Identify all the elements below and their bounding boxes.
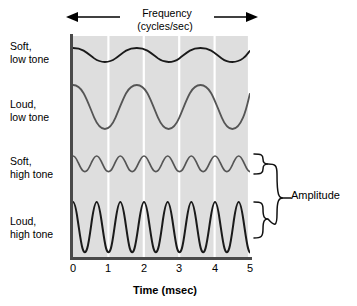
row-label-line1: Soft, <box>10 155 70 168</box>
x-tick-4: 4 <box>207 262 223 274</box>
wave-soft-low-tone <box>73 48 250 62</box>
row-label-soft-high-tone: Soft, high tone <box>10 155 70 180</box>
row-label-line2: high tone <box>10 168 70 181</box>
amplitude-label: Amplitude <box>291 189 340 201</box>
x-axis-title: Time (msec) <box>100 284 230 296</box>
x-tick-2: 2 <box>136 262 152 274</box>
row-label-line1: Loud, <box>10 215 70 228</box>
frequency-sublabel: (cycles/sec) <box>118 20 212 32</box>
waveforms-svg <box>73 36 250 258</box>
x-tick-5: 5 <box>242 262 258 274</box>
row-label-line2: high tone <box>10 228 70 241</box>
x-tick-1: 1 <box>100 262 116 274</box>
y-axis-line <box>70 34 73 260</box>
row-label-line1: Soft, <box>10 40 70 53</box>
row-label-line2: low tone <box>10 53 70 66</box>
x-tick-3: 3 <box>171 262 187 274</box>
amplitude-brace-icon <box>252 148 292 262</box>
row-label-loud-high-tone: Loud, high tone <box>10 215 70 240</box>
row-label-line1: Loud, <box>10 98 70 111</box>
x-axis-line <box>70 257 252 260</box>
frequency-label: Frequency <box>120 7 214 19</box>
row-label-loud-low-tone: Loud, low tone <box>10 98 70 123</box>
plot-area <box>73 36 250 258</box>
x-tick-0: 0 <box>65 262 81 274</box>
wave-loud-low-tone <box>73 85 250 129</box>
sound-wave-figure: Frequency (cycles/sec) Soft, low t <box>0 0 357 306</box>
gridlines <box>108 36 249 258</box>
wave-loud-high-tone <box>73 202 250 253</box>
row-label-line2: low tone <box>10 111 70 124</box>
row-label-soft-low-tone: Soft, low tone <box>10 40 70 65</box>
wave-soft-high-tone <box>73 156 250 172</box>
